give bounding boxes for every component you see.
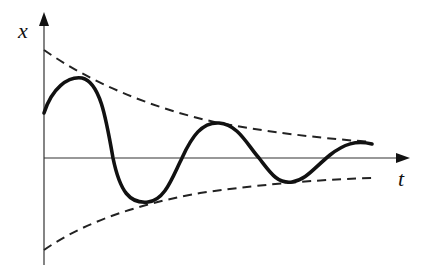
lower-envelope	[44, 178, 375, 250]
x-axis-label: t	[398, 166, 404, 192]
oscillation-curve	[44, 78, 372, 202]
upper-envelope	[44, 50, 372, 142]
y-axis-label: x	[18, 18, 28, 44]
damped-oscillation-diagram	[0, 0, 428, 279]
x-axis-arrow-icon	[396, 153, 410, 163]
y-axis-arrow-icon	[39, 12, 49, 26]
